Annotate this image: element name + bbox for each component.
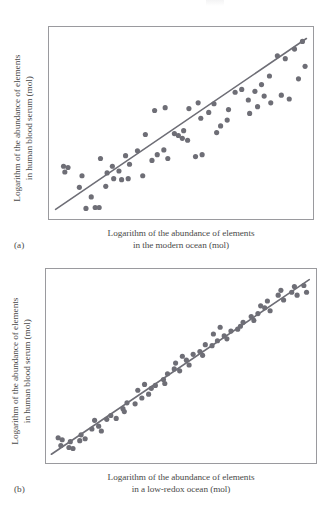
data-point xyxy=(262,94,267,99)
data-point xyxy=(275,53,280,58)
data-point xyxy=(180,136,185,141)
data-point xyxy=(111,176,116,181)
data-point xyxy=(149,386,154,391)
data-point xyxy=(295,293,300,298)
data-point xyxy=(259,82,264,87)
data-point xyxy=(123,153,128,158)
data-point xyxy=(206,110,211,115)
data-point xyxy=(279,93,284,98)
panel-a-plot-area xyxy=(48,26,314,220)
data-point xyxy=(135,388,140,393)
data-point xyxy=(108,413,113,418)
panel-b-scatter-plot xyxy=(46,269,316,463)
data-point xyxy=(133,401,138,406)
data-point xyxy=(77,185,82,190)
panel-a-y-axis-label-line2: in human blood serum (mol) xyxy=(23,28,35,228)
data-point xyxy=(255,311,260,316)
data-point xyxy=(187,362,192,367)
data-point xyxy=(98,156,103,161)
trendline xyxy=(56,39,307,210)
data-point xyxy=(278,288,283,293)
panel-b-y-axis-label: Logarithm of the abundance of elements i… xyxy=(9,271,33,471)
data-point xyxy=(135,148,140,153)
data-point xyxy=(162,381,167,386)
panel-b-plot-area xyxy=(45,268,317,464)
data-point xyxy=(58,443,63,448)
data-point xyxy=(301,283,306,288)
data-point xyxy=(127,162,132,167)
data-point xyxy=(163,105,168,110)
data-point xyxy=(302,64,307,69)
data-point xyxy=(193,154,198,159)
data-point xyxy=(268,100,273,105)
data-point xyxy=(104,417,109,422)
panel-a: Logarithm of the abundance of elements i… xyxy=(0,0,334,260)
data-point xyxy=(300,39,305,44)
data-point xyxy=(114,416,119,421)
panel-b-x-axis-label-line2: in a low-redox ocean (mol) xyxy=(45,483,317,495)
data-point xyxy=(96,424,101,429)
data-point xyxy=(126,176,131,181)
data-point xyxy=(281,297,286,302)
panel-a-x-axis-label-line1: Logarithm of the abundance of elements xyxy=(48,227,314,239)
data-point xyxy=(218,123,223,128)
data-point xyxy=(200,152,205,157)
data-point xyxy=(203,342,208,347)
panel-a-scatter-plot xyxy=(49,27,313,219)
data-point xyxy=(239,87,244,92)
data-point xyxy=(252,89,257,94)
data-point xyxy=(139,395,144,400)
data-point xyxy=(60,437,65,442)
data-point xyxy=(161,147,166,152)
panel-a-tag: (a) xyxy=(14,240,24,251)
data-point xyxy=(209,343,214,348)
data-point xyxy=(191,352,196,357)
data-point xyxy=(287,96,292,101)
data-point xyxy=(276,293,281,298)
data-point xyxy=(265,298,270,303)
data-point xyxy=(233,90,238,95)
data-point xyxy=(116,168,121,173)
data-point xyxy=(228,329,233,334)
data-point xyxy=(77,438,82,443)
data-point xyxy=(110,164,115,169)
data-point xyxy=(68,439,73,444)
data-point xyxy=(172,366,177,371)
data-point xyxy=(211,331,216,336)
data-point xyxy=(79,432,84,437)
data-point xyxy=(296,76,301,81)
data-point xyxy=(155,152,160,157)
data-point xyxy=(214,130,219,135)
panel-b-x-axis-label: Logarithm of the abundance of elements i… xyxy=(45,471,317,496)
data-point xyxy=(226,107,231,112)
data-point xyxy=(79,173,84,178)
data-point xyxy=(181,128,186,133)
data-point xyxy=(292,284,297,289)
panel-b: Logarithm of the abundance of elements i… xyxy=(0,258,334,517)
data-point xyxy=(198,116,203,121)
data-point xyxy=(186,106,191,111)
data-point xyxy=(215,338,220,343)
panel-a-y-axis-label: Logarithm of the abundance of elements i… xyxy=(11,28,35,228)
data-point xyxy=(289,290,294,295)
figure-container: Logarithm of the abundance of elements i… xyxy=(0,0,334,517)
data-point xyxy=(268,308,273,313)
data-point xyxy=(89,194,94,199)
data-point xyxy=(99,428,104,433)
data-point xyxy=(104,170,109,175)
data-point xyxy=(70,446,75,451)
data-point xyxy=(165,156,170,161)
data-point xyxy=(119,177,124,182)
data-point xyxy=(200,353,205,358)
data-point xyxy=(89,426,94,431)
data-point xyxy=(258,303,263,308)
data-point xyxy=(152,108,157,113)
data-point xyxy=(61,164,66,169)
data-point xyxy=(292,47,297,52)
data-point xyxy=(122,409,127,414)
data-point xyxy=(143,132,148,137)
data-point xyxy=(83,206,88,211)
data-point xyxy=(177,368,182,373)
data-point xyxy=(246,97,251,102)
data-point xyxy=(142,382,147,387)
